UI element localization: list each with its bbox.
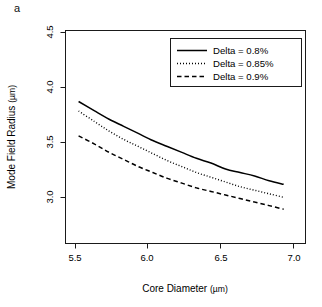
data-curves [79, 102, 284, 210]
y-axis-ticks [61, 33, 66, 198]
legend-label-0: Delta = 0.8% [213, 46, 268, 56]
series-line-delta-0-8 [79, 102, 284, 185]
x-axis-title-text: Core Diameter [142, 283, 207, 294]
y-tick-label-3: 4.5 [45, 25, 55, 38]
y-tick-label-1: 3.5 [45, 135, 55, 148]
legend-label-1: Delta = 0.85% [213, 59, 274, 69]
series-line-delta-0-9 [79, 136, 284, 209]
x-tick-label-0: 5.5 [68, 253, 81, 263]
series-line-delta-0-85 [79, 111, 284, 197]
y-tick-label-2: 4.0 [45, 80, 55, 93]
x-tick-label-3: 7.0 [287, 253, 300, 263]
x-tick-label-2: 6.5 [214, 253, 227, 263]
x-axis-unit: (µm) [210, 284, 228, 294]
y-tick-label-0: 3.0 [45, 190, 55, 203]
x-axis-title: Core Diameter (µm) [142, 283, 228, 295]
plot-area [0, 0, 322, 307]
y-axis-title: Mode Field Radius (µm) [6, 85, 18, 189]
x-axis-ticks [76, 244, 294, 249]
figure-panel-a: a De [0, 0, 322, 307]
legend-label-2: Delta = 0.9% [213, 72, 268, 82]
x-tick-label-1: 6.0 [140, 253, 153, 263]
y-axis-unit: (µm) [7, 85, 17, 103]
y-axis-title-text: Mode Field Radius [6, 106, 17, 189]
